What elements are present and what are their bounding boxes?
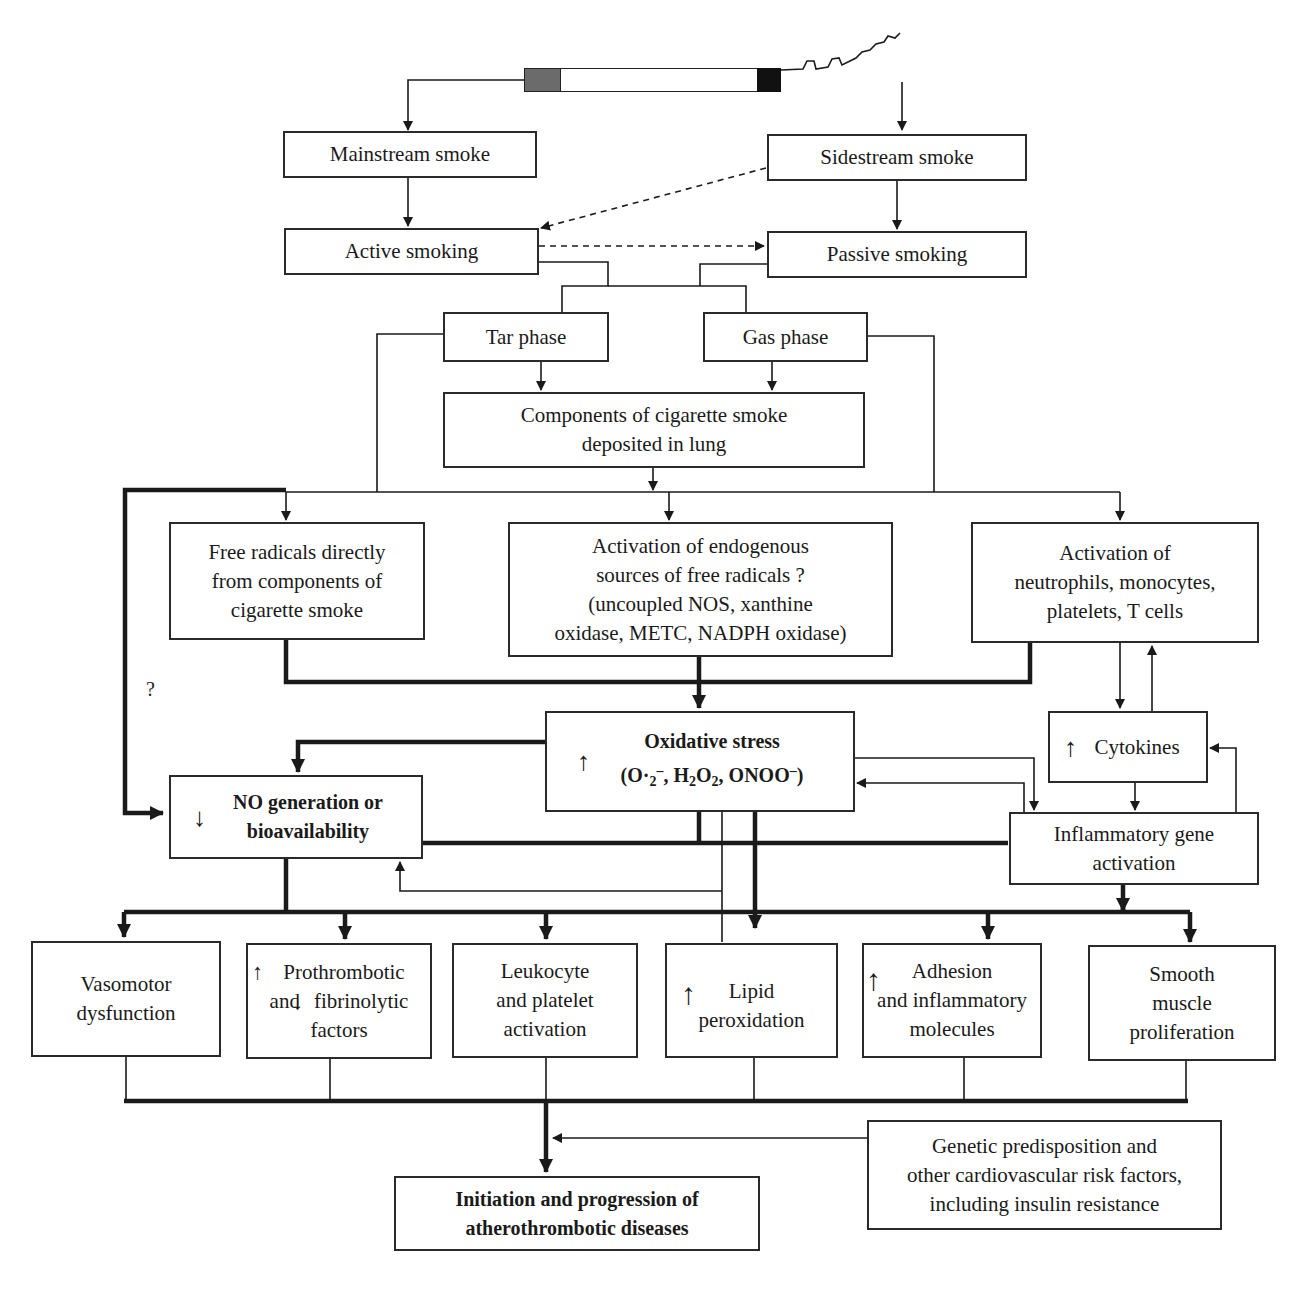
active-smoking-label: Active smoking [345,237,479,266]
mainstream-smoke-label: Mainstream smoke [330,140,490,169]
smooth-line-3: proliferation [1130,1018,1235,1047]
decrease-arrow-icon: ↓ [292,989,303,1015]
endogenous-line-1: Activation of endogenous [554,532,846,561]
outcome-line-2: atherothrombotic diseases [455,1214,698,1243]
neutrophils-line-3: platelets, T cells [1014,597,1215,626]
uncertain-pathway-question-mark: ? [146,678,155,701]
components-deposited-box: Components of cigarette smoke deposited … [443,392,865,468]
passive-smoking-label: Passive smoking [827,240,968,269]
inflammatory-line-2: activation [1054,849,1214,878]
leukocyte-line-2: and platelet [496,986,593,1015]
no-line-1: NO generation or [233,788,383,817]
oxidative-stress-label: Oxidative stress [621,727,804,756]
vasomotor-line-2: dysfunction [76,999,175,1028]
smooth-line-1: Smooth [1130,960,1235,989]
decrease-arrow-icon: ↓ [193,805,206,831]
no-line-2: bioavailability [233,817,383,846]
adhesion-line-1: Adhesion [877,957,1027,986]
endogenous-sources-box: Activation of endogenous sources of free… [508,522,893,657]
genetic-line-3: including insulin resistance [907,1190,1182,1219]
neutrophils-line-2: neutrophils, monocytes, [1014,568,1215,597]
sidestream-smoke-box: Sidestream smoke [767,134,1027,181]
mainstream-smoke-box: Mainstream smoke [283,131,537,178]
gas-phase-label: Gas phase [743,323,829,352]
genetic-line-2: other cardiovascular risk factors, [907,1161,1182,1190]
passive-smoking-box: Passive smoking [767,231,1027,278]
endogenous-line-4: oxidase, METC, NADPH oxidase) [554,619,846,648]
cigarette-lit-tip [757,68,781,92]
prothrombotic-factors-box: ↑ ↓ Prothrombotic andfibrinolytic factor… [246,943,432,1059]
free-radicals-line-2: from components of [208,567,385,596]
neutrophils-activation-box: Activation of neutrophils, monocytes, pl… [971,522,1259,643]
increase-arrow-icon: ↑ [252,959,263,985]
smoke-wisp [781,33,900,70]
outcome-line-1: Initiation and progression of [455,1185,698,1214]
smooth-line-2: muscle [1130,989,1235,1018]
endogenous-line-2: sources of free radicals ? [554,561,846,590]
leukocyte-line-1: Leukocyte [496,957,593,986]
cytokines-label: Cytokines [1076,733,1179,762]
sidestream-smoke-label: Sidestream smoke [820,143,973,172]
active-smoking-box: Active smoking [284,228,539,275]
lipid-line-2: peroxidation [698,1006,804,1035]
oxidative-species-formula: (O·2–, H2O2, ONOO–) [621,756,804,796]
cigarette-body [561,68,758,92]
leukocyte-platelet-activation-box: Leukocyte and platelet activation [452,943,638,1058]
cigarette-filter [524,68,561,92]
prothrombotic-line-3: factors [270,1016,409,1045]
adhesion-line-3: molecules [877,1015,1027,1044]
increase-arrow-icon: ↑ [681,981,696,1007]
leukocyte-line-3: activation [496,1015,593,1044]
no-bioavailability-box: ↓ NO generation or bioavailability [169,775,423,859]
increase-arrow-icon: ↑ [866,967,881,993]
free-radicals-line-1: Free radicals directly [208,538,385,567]
tar-phase-label: Tar phase [486,323,567,352]
adhesion-molecules-box: ↑ Adhesion and inflammatory molecules [862,943,1042,1058]
components-line-1: Components of cigarette smoke [521,401,788,430]
vasomotor-line-1: Vasomotor [76,970,175,999]
increase-arrow-icon: ↑ [577,749,590,775]
tar-phase-box: Tar phase [443,312,609,362]
genetic-line-1: Genetic predisposition and [907,1132,1182,1161]
free-radicals-box: Free radicals directly from components o… [169,522,425,640]
lipid-peroxidation-box: ↑ Lipid peroxidation [665,943,838,1058]
gas-phase-box: Gas phase [703,312,868,362]
atherothrombotic-outcome-box: Initiation and progression of atherothro… [394,1176,760,1251]
adhesion-line-2: and inflammatory [877,986,1027,1015]
prothrombotic-line-1: Prothrombotic [270,958,409,987]
inflammatory-gene-activation-box: Inflammatory gene activation [1009,812,1259,885]
lipid-line-1: Lipid [698,977,804,1006]
increase-arrow-icon: ↑ [1064,735,1077,761]
genetic-risk-factors-box: Genetic predisposition and other cardiov… [867,1120,1222,1230]
components-line-2: deposited in lung [521,430,788,459]
prothrombotic-line-2: andfibrinolytic [270,987,409,1016]
cytokines-box: ↑ Cytokines [1048,711,1208,783]
endogenous-line-3: (uncoupled NOS, xanthine [554,590,846,619]
smooth-muscle-proliferation-box: Smooth muscle proliferation [1088,945,1276,1061]
neutrophils-line-1: Activation of [1014,539,1215,568]
inflammatory-line-1: Inflammatory gene [1054,820,1214,849]
oxidative-stress-box: ↑ Oxidative stress (O·2–, H2O2, ONOO–) [545,711,855,812]
free-radicals-line-3: cigarette smoke [208,596,385,625]
vasomotor-dysfunction-box: Vasomotor dysfunction [31,941,221,1057]
